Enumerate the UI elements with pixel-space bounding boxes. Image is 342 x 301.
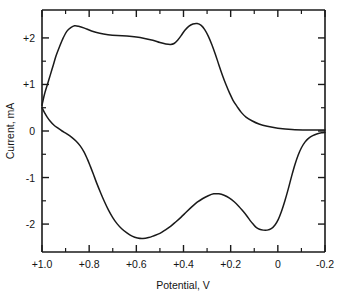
x-tick-label: +1.0 [32, 258, 53, 270]
x-tick-label: +0.8 [79, 258, 100, 270]
y-tick-label: -2 [26, 218, 35, 230]
x-tick-label: +0.4 [173, 258, 194, 270]
y-tick-label: +2 [23, 32, 35, 44]
x-tick-label: +0.2 [220, 258, 241, 270]
x-tick-label: -0.2 [316, 258, 334, 270]
y-tick-label: 0 [29, 125, 35, 137]
x-tick-label: +0.6 [126, 258, 147, 270]
y-tick-label: +1 [23, 78, 35, 90]
chart-svg: +1.0+0.8+0.6+0.4+0.20-0.2 +2+10-1-2 Pote… [0, 0, 342, 301]
x-axis-title: Potential, V [156, 279, 210, 291]
cyclic-voltammogram-figure: +1.0+0.8+0.6+0.4+0.20-0.2 +2+10-1-2 Pote… [0, 0, 342, 301]
y-tick-label: -1 [26, 172, 35, 184]
x-tick-label: 0 [275, 258, 281, 270]
y-axis-title: Current, mA [4, 103, 16, 160]
